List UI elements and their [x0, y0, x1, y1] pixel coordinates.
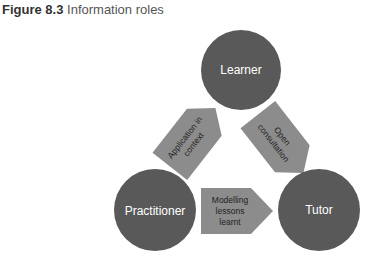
arrow-modelling-lessons-learnt: Modelling lessons learnt	[201, 188, 273, 234]
node-tutor-label: Tutor	[305, 203, 333, 217]
arrow-bottom-line3: learnt	[219, 217, 241, 227]
node-learner: Learner	[201, 30, 281, 110]
arrow-bottom-line1: Modelling	[212, 195, 249, 205]
node-tutor: Tutor	[278, 169, 360, 251]
node-learner-label: Learner	[220, 63, 261, 77]
information-roles-diagram: Application in context Open consultation…	[0, 0, 375, 268]
node-practitioner: Practitioner	[114, 169, 196, 251]
node-practitioner-label: Practitioner	[125, 204, 186, 218]
arrow-application-in-context: Application in context	[152, 95, 232, 180]
arrow-bottom-line2: lessons	[216, 206, 245, 216]
